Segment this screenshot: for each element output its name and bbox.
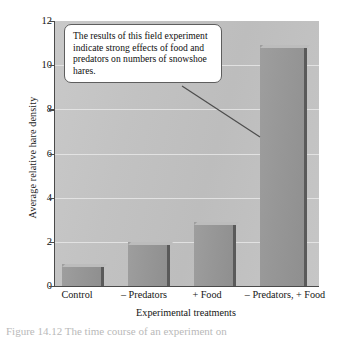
figure-caption: Figure 14.12 The time course of an exper… (6, 325, 336, 338)
callout-line-1: The results of this field experiment (73, 30, 214, 42)
x-tick-label-control: Control (40, 289, 114, 300)
callout-line-2: indicate strong effects of food and (73, 42, 214, 54)
callout-line-4: hares. (73, 65, 214, 77)
bar-side-face (167, 245, 170, 286)
bar-plus-food[interactable] (194, 222, 233, 286)
x-axis-label: Experimental treatments (54, 307, 318, 318)
bar-control[interactable] (62, 264, 101, 286)
x-tick-label-minus-predators-plus-food: – Predators, + Food (232, 289, 338, 300)
results-callout[interactable]: The results of this field experiment ind… (64, 24, 222, 83)
bar-side-face (304, 48, 307, 286)
x-tick-label-minus-predators: – Predators (106, 289, 182, 300)
bar-minus-predators[interactable] (128, 242, 167, 286)
x-tick-label-plus-food: + Food (176, 289, 238, 300)
bar-top-face (260, 45, 310, 48)
bar-minus-predators-plus-food[interactable] (260, 45, 304, 286)
y-axis-label: Average relative hare density (27, 63, 38, 253)
bar-side-face (233, 225, 236, 286)
bar-side-face (101, 267, 104, 286)
callout-line-3: predators on numbers of snowshoe (73, 53, 214, 65)
